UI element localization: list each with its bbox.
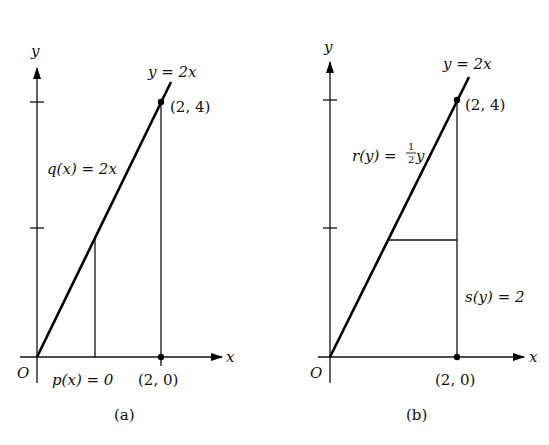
point-top-label: (2, 4) bbox=[465, 96, 505, 114]
right-function-label: s(y) = 2 bbox=[465, 288, 525, 306]
x-axis-label: x bbox=[529, 348, 538, 366]
figure: y x O y = 2x (2, 4) q(x) = 2x p(x) = 0 (… bbox=[0, 0, 549, 445]
y-axis-label: y bbox=[323, 38, 333, 56]
line-label: y = 2x bbox=[147, 63, 197, 81]
panel-b: y x O y = 2x (2, 4) r(y) = 1 2 y s(y) = … bbox=[310, 38, 538, 424]
point-2-0 bbox=[158, 354, 164, 360]
origin-label: O bbox=[310, 364, 322, 382]
panel-a: y x O y = 2x (2, 4) q(x) = 2x p(x) = 0 (… bbox=[17, 42, 235, 424]
left-function-prefix: r(y) = bbox=[352, 147, 397, 165]
point-bottom-label: (2, 0) bbox=[138, 371, 178, 389]
point-2-4 bbox=[158, 99, 164, 105]
point-bottom-label: (2, 0) bbox=[435, 371, 475, 389]
origin-label: O bbox=[17, 364, 29, 382]
y-axis-label: y bbox=[30, 42, 40, 60]
frac-denominator: 2 bbox=[408, 154, 414, 165]
left-function-label: r(y) = bbox=[352, 147, 397, 165]
upper-function-label: q(x) = 2x bbox=[47, 160, 117, 178]
point-2-0 bbox=[454, 354, 460, 360]
frac-numerator: 1 bbox=[408, 141, 414, 152]
point-top-label: (2, 4) bbox=[170, 98, 210, 116]
line-y-equals-2x bbox=[330, 77, 469, 357]
caption-b: (b) bbox=[406, 406, 427, 424]
line-y-equals-2x bbox=[37, 82, 171, 357]
line-label: y = 2x bbox=[442, 55, 492, 73]
point-2-4 bbox=[454, 97, 460, 103]
x-axis-label: x bbox=[226, 348, 235, 366]
left-function-suffix: y bbox=[415, 147, 425, 165]
caption-a: (a) bbox=[114, 406, 135, 424]
lower-function-label: p(x) = 0 bbox=[52, 371, 114, 389]
